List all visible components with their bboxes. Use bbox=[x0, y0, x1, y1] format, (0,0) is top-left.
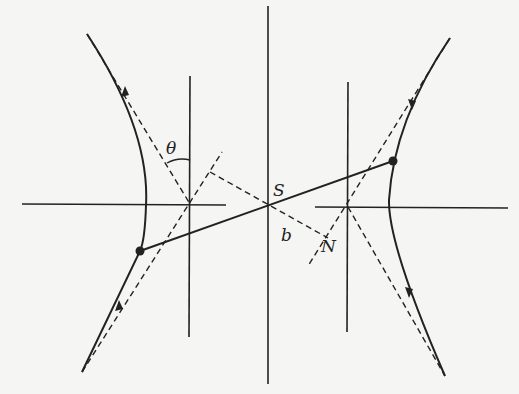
right-vertical-line bbox=[347, 82, 348, 332]
left-point-dot bbox=[136, 247, 145, 256]
label-theta: θ bbox=[166, 138, 176, 158]
label-s: S bbox=[273, 180, 285, 200]
label-n: N bbox=[321, 236, 336, 256]
hyperbola-scattering-diagram: θ S b N bbox=[0, 0, 519, 394]
label-b: b bbox=[281, 225, 292, 245]
impact-line bbox=[140, 161, 393, 251]
left-horizontal-axis bbox=[22, 204, 226, 205]
diagram-canvas bbox=[0, 0, 519, 394]
asymptote-lower-left bbox=[82, 152, 222, 372]
asymptote-upper-right bbox=[308, 38, 450, 266]
left-vertical-line bbox=[189, 76, 190, 337]
theta-arc bbox=[167, 159, 190, 163]
right-point-dot bbox=[389, 157, 398, 166]
asymptote-lower-right bbox=[348, 207, 445, 376]
arrow-upper-left-icon bbox=[121, 86, 129, 97]
